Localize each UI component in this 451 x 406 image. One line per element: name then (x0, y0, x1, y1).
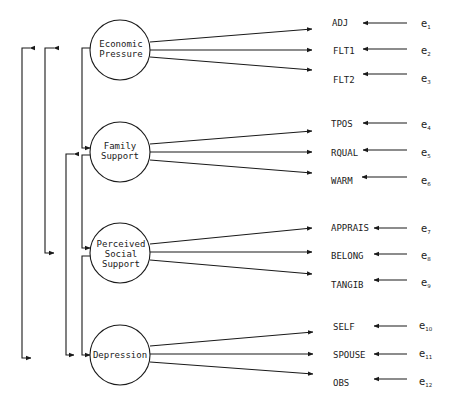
indicator-belong: BELONG (331, 251, 364, 261)
error-e4: e4 (421, 119, 431, 131)
indicator-flt2: FLT2 (333, 75, 355, 85)
factor-family-support: Family Support (90, 122, 150, 182)
covariance-pss-dep (82, 256, 90, 355)
indicator-tpos: TPOS (331, 119, 353, 129)
factor-economic-pressure: Economic Pressure (90, 20, 150, 80)
indicator-spouse: SPOUSE (333, 350, 366, 360)
covariance-brackets (22, 48, 90, 358)
factor-label-line: Perceived (97, 239, 146, 249)
error-e7: e7 (421, 223, 431, 235)
error-e9: e9 (421, 277, 431, 289)
factor-label-line: Social (105, 249, 138, 259)
error-e3: e3 (421, 73, 431, 85)
error-e5: e5 (421, 147, 431, 159)
factor-depression: Depression (90, 325, 150, 385)
covariance-ep-pss (45, 48, 54, 253)
error-e8: e8 (421, 250, 431, 262)
indicator-flt1: FLT1 (333, 46, 355, 56)
factor-perceived-social-support: Perceived Social Support (90, 223, 150, 283)
error-e2: e2 (421, 45, 431, 57)
error-arrows (362, 23, 407, 379)
factor-label-line: Support (101, 151, 139, 161)
factor-label-line: Support (102, 259, 140, 269)
error-e6: e6 (421, 175, 431, 187)
indicator-obs: OBS (333, 378, 349, 388)
indicator-rqual: RQUAL (331, 148, 358, 158)
error-e10: e10 (419, 320, 433, 332)
error-e1: e1 (421, 18, 431, 30)
factor-label-line: Family (104, 141, 137, 151)
indicator-apprais: APPRAIS (331, 223, 369, 233)
factor-label-line: Economic (99, 39, 142, 49)
indicator-tangib: TANGIB (331, 280, 364, 290)
indicator-adj: ADJ (332, 18, 348, 28)
covariance-fs-dep (66, 154, 74, 355)
factor-loadings (150, 29, 313, 374)
factor-label-line: Pressure (99, 49, 142, 59)
error-e12: e12 (419, 376, 432, 388)
sem-diagram: Economic Pressure Family Support Perceiv… (0, 0, 451, 406)
covariance-fs-pss (82, 155, 90, 248)
factor-label-line: Depression (93, 350, 147, 360)
covariance-ep-dep (22, 48, 31, 358)
covariance-ep-fs (82, 48, 90, 148)
indicator-self: SELF (333, 322, 355, 332)
error-terms: e1 e2 e3 e4 e5 e6 e7 e8 e9 e10 e11 e12 (419, 18, 433, 388)
error-e11: e11 (419, 348, 432, 360)
indicator-warm: WARM (331, 176, 353, 186)
